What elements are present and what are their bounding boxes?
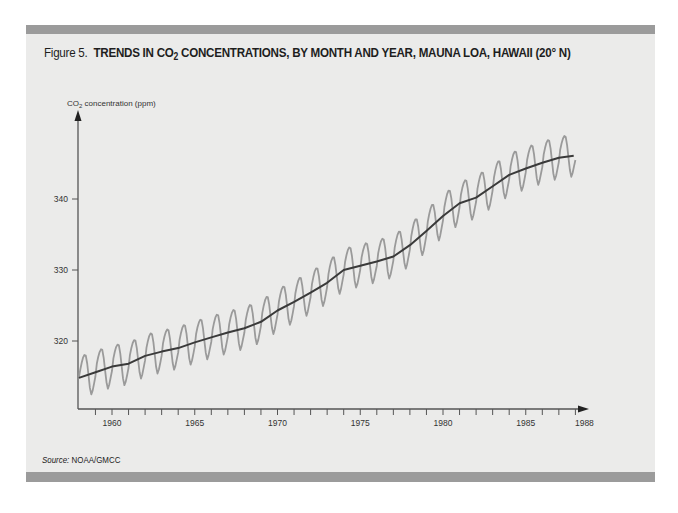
y-tick-label: 340: [54, 194, 68, 204]
x-tick-label: 1988: [575, 418, 594, 428]
x-tick-label: 1960: [103, 418, 122, 428]
x-tick-label: 1985: [516, 418, 535, 428]
y-axis-title: CO2 concentration (ppm): [67, 99, 156, 109]
axis-labels: 1960196519701975198019851988320330340CO2…: [54, 99, 594, 428]
y-axis-arrow-icon: [75, 110, 82, 121]
x-tick-label: 1970: [268, 418, 287, 428]
y-tick-label: 320: [54, 336, 68, 346]
x-tick-label: 1975: [351, 418, 370, 428]
monthly-series-line: [79, 136, 576, 394]
x-axis-arrow-icon: [578, 406, 589, 413]
x-tick-label: 1965: [185, 418, 204, 428]
y-tick-label: 330: [54, 265, 68, 275]
co2-line-chart: 1960196519701975198019851988320330340CO2…: [0, 0, 678, 513]
x-tick-label: 1980: [434, 418, 453, 428]
